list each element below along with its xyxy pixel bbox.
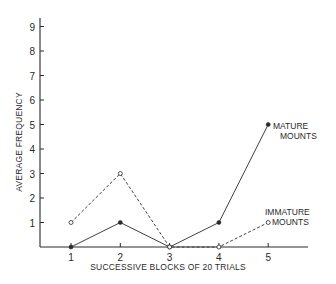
y-tick-label: 4 <box>29 144 35 155</box>
y-tick-label: 8 <box>29 46 35 57</box>
series-line <box>71 125 268 248</box>
open-point-marker <box>266 221 270 225</box>
y-tick-label: 9 <box>29 22 35 33</box>
y-tick-label: 1 <box>29 218 35 229</box>
series-label: IMMATUREMOUNTS <box>265 207 310 227</box>
open-point-marker <box>168 245 172 249</box>
series-line <box>71 174 268 248</box>
filled-point-marker <box>217 221 221 225</box>
y-axis-label: AVERAGE FREQUENCY <box>14 92 24 192</box>
y-tick-label: 2 <box>29 193 35 204</box>
filled-point-marker <box>118 221 122 225</box>
series-immature-mounts <box>69 172 270 250</box>
series-mature-mounts <box>69 123 270 250</box>
axes: 12345678912345 <box>29 18 308 263</box>
y-tick-label: 5 <box>29 120 35 131</box>
open-point-marker <box>69 221 73 225</box>
open-point-marker <box>217 245 221 249</box>
y-tick-label: 3 <box>29 169 35 180</box>
line-chart: 12345678912345 SUCCESSIVE BLOCKS OF 20 T… <box>0 0 336 284</box>
series-group <box>69 123 270 250</box>
y-tick-label: 6 <box>29 95 35 106</box>
series-label: MATUREMOUNTS <box>273 121 317 141</box>
y-tick-label: 7 <box>29 71 35 82</box>
filled-point-marker <box>266 123 270 127</box>
x-tick-label: 5 <box>265 252 271 263</box>
x-axis-label: SUCCESSIVE BLOCKS OF 20 TRIALS <box>90 262 246 272</box>
filled-point-marker <box>69 245 73 249</box>
open-point-marker <box>118 172 122 176</box>
x-tick-label: 1 <box>68 252 74 263</box>
